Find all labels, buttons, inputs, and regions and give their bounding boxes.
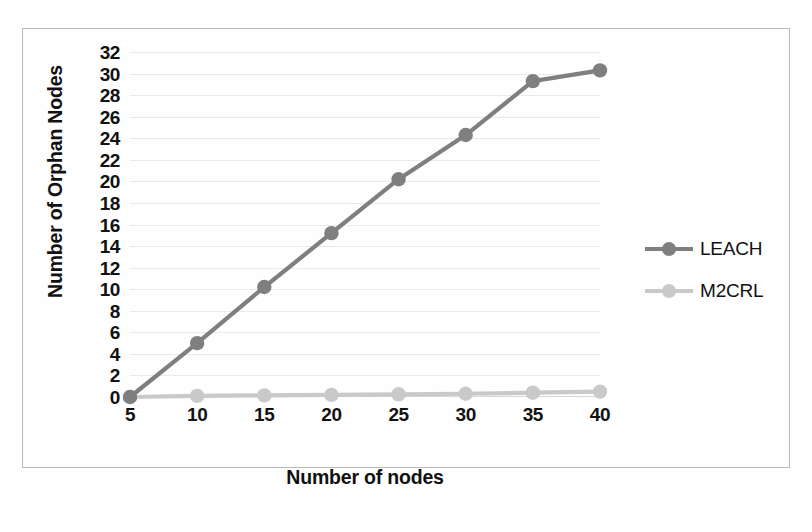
x-tick-label: 30 (436, 404, 496, 426)
y-tick-label: 30 (84, 65, 120, 84)
y-tick-label: 28 (84, 86, 120, 105)
x-tick-label: 15 (234, 404, 294, 426)
data-point (593, 384, 607, 398)
y-axis-title: Number of Orphan Nodes (44, 32, 67, 332)
y-tick-label: 20 (84, 172, 120, 191)
x-tick-label: 35 (503, 404, 563, 426)
legend-marker-icon (645, 242, 693, 256)
y-axis-tick-labels: 32302826242220181614121086420 (84, 48, 120, 402)
y-tick-label: 12 (84, 259, 120, 278)
x-axis-tick-labels: 510152025303540 (130, 404, 600, 434)
y-tick-label: 14 (84, 237, 120, 256)
x-tick-label: 20 (301, 404, 361, 426)
y-tick-label: 8 (84, 302, 120, 321)
y-tick-label: 6 (84, 323, 120, 342)
x-tick-label: 5 (100, 404, 160, 426)
plot-area (130, 52, 600, 397)
legend-dot (662, 284, 676, 298)
chart-figure: Number of Orphan Nodes 32302826242220181… (0, 0, 812, 532)
y-tick-label: 32 (84, 43, 120, 62)
data-point (123, 390, 137, 404)
series-leach (123, 63, 607, 404)
data-point (459, 128, 473, 142)
x-tick-label: 40 (570, 404, 630, 426)
data-point (190, 389, 204, 403)
y-tick-label: 16 (84, 216, 120, 235)
legend-dot (662, 242, 676, 256)
y-tick-label: 22 (84, 151, 120, 170)
data-point (526, 74, 540, 88)
legend-entry-leach[interactable]: LEACH (645, 228, 795, 270)
data-point (257, 280, 271, 294)
y-tick-label: 26 (84, 108, 120, 127)
data-point (324, 226, 338, 240)
data-point (526, 385, 540, 399)
y-tick-label: 4 (84, 345, 120, 364)
data-point (459, 387, 473, 401)
data-point (593, 63, 607, 77)
y-tick-label: 10 (84, 280, 120, 299)
legend-marker-icon (645, 284, 693, 298)
legend-label: LEACH (700, 238, 762, 260)
y-tick-label: 18 (84, 194, 120, 213)
data-point (391, 387, 405, 401)
data-point (190, 336, 204, 350)
y-tick-label: 2 (84, 366, 120, 385)
x-axis-title: Number of nodes (130, 466, 600, 489)
series-plot (130, 52, 600, 397)
legend-label: M2CRL (700, 280, 763, 302)
x-tick-label: 10 (167, 404, 227, 426)
y-tick-label: 24 (84, 129, 120, 148)
data-point (257, 388, 271, 402)
chart-legend: LEACHM2CRL (645, 228, 795, 312)
data-point (391, 172, 405, 186)
x-tick-label: 25 (369, 404, 429, 426)
data-point (324, 388, 338, 402)
legend-entry-m2crl[interactable]: M2CRL (645, 270, 795, 312)
